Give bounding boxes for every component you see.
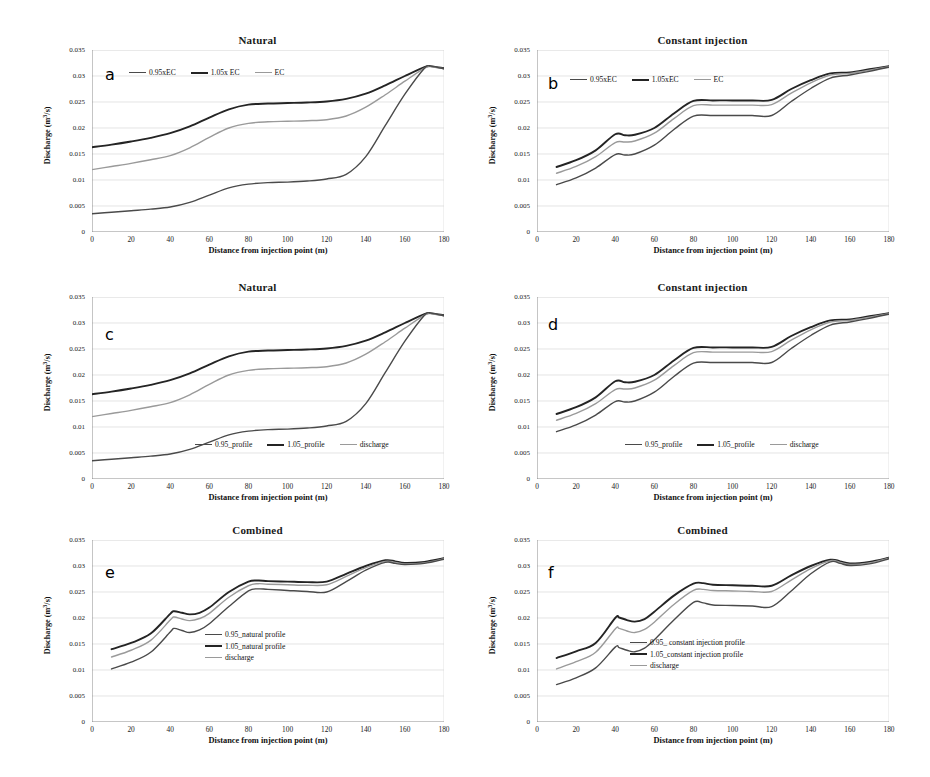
x-tick-label: 120 (312, 235, 342, 244)
legend-label: EC (714, 75, 724, 84)
y-tick-label: 0.02 (490, 614, 530, 622)
x-tick-label: 160 (835, 235, 865, 244)
y-axis-label-a: Discharge (m3/s) (42, 80, 53, 190)
x-tick-label: 160 (390, 235, 420, 244)
legend-item: 1.05_profile (697, 440, 754, 449)
y-tick-label: 0.035 (490, 293, 530, 301)
legend-item: discharge (340, 440, 389, 449)
legend-item: EC (255, 68, 285, 77)
y-tick-label: 0.01 (490, 423, 530, 431)
x-tick-label: 20 (116, 725, 146, 734)
legend-swatch-line-icon (191, 72, 208, 74)
x-tick-label: 60 (639, 482, 669, 491)
legend-label: discharge (790, 440, 819, 449)
x-tick-label: 140 (351, 482, 381, 491)
legend-item: 0.95_profile (195, 440, 252, 449)
legend-label: 0.95_natural profile (225, 630, 285, 639)
x-tick-label: 160 (390, 725, 420, 734)
y-tick-label: 0.03 (490, 72, 530, 80)
panel-letter-f: f (548, 563, 554, 582)
x-tick-label: 60 (194, 482, 224, 491)
y-tick-label: 0.025 (45, 98, 85, 106)
y-tick-label: 0.02 (490, 371, 530, 379)
plot-area-d (537, 297, 889, 479)
panel-letter-e: e (105, 563, 115, 582)
y-tick-label: 0.015 (490, 150, 530, 158)
legend-e: 0.95_natural profile1.05_natural profile… (205, 630, 285, 665)
y-tick-label: 0.03 (490, 319, 530, 327)
legend-swatch-line-icon (632, 79, 649, 81)
y-tick-label: 0.025 (490, 588, 530, 596)
legend-label: 0.95_profile (645, 440, 682, 449)
legend-swatch-line-icon (697, 444, 714, 446)
y-tick-label: 0.025 (490, 345, 530, 353)
y-tick-label: 0.005 (45, 202, 85, 210)
plot-area-a (92, 50, 444, 232)
legend-swatch-line-icon (205, 657, 222, 658)
series-line-d-2 (557, 314, 889, 432)
series-line-d-0 (557, 313, 889, 414)
legend-label: 0.95xEC (590, 75, 617, 84)
x-tick-label: 60 (194, 235, 224, 244)
legend-label: 1.05_profile (717, 440, 754, 449)
x-tick-label: 60 (639, 235, 669, 244)
x-tick-label: 140 (796, 725, 826, 734)
x-tick-label: 0 (522, 235, 552, 244)
x-tick-label: 100 (718, 235, 748, 244)
x-tick-label: 20 (561, 725, 591, 734)
x-tick-label: 120 (312, 725, 342, 734)
x-tick-label: 120 (757, 482, 787, 491)
y-axis-label-c: Discharge (m3/s) (42, 327, 53, 437)
panel-letter-b: b (548, 74, 558, 93)
legend-swatch-line-icon (195, 444, 212, 445)
chart-panel-d: Constant injectionDischarge (m3/s)00.005… (470, 277, 930, 526)
x-tick-label: 80 (678, 725, 708, 734)
y-tick-label: 0.02 (45, 371, 85, 379)
panel-title-e: Combined (25, 524, 490, 536)
plot-area-c (92, 297, 444, 479)
chart-panel-c: NaturalDischarge (m3/s)00.0050.010.0150.… (25, 277, 490, 526)
x-tick-label: 20 (561, 482, 591, 491)
y-tick-label: 0.015 (45, 640, 85, 648)
y-tick-label: 0.02 (45, 614, 85, 622)
figure-panel-grid: NaturalDischarge (m3/s)00.0050.010.0150.… (0, 0, 930, 777)
y-tick-label: 0.015 (490, 397, 530, 405)
legend-label: 0.95_profile (215, 440, 252, 449)
x-tick-label: 140 (351, 725, 381, 734)
legend-f: 0.95_ constant injection profile1.05_con… (630, 638, 745, 673)
x-axis-label-c: Distance from injection point (m) (92, 493, 444, 502)
x-tick-label: 120 (757, 235, 787, 244)
legend-label: 1.05_natural profile (225, 642, 285, 651)
plot-area-f (537, 540, 889, 722)
y-tick-label: 0.035 (490, 536, 530, 544)
x-tick-label: 80 (233, 235, 263, 244)
x-tick-label: 40 (155, 482, 185, 491)
legend-item: 0.95_profile (625, 440, 682, 449)
legend-swatch-line-icon (570, 79, 587, 80)
y-tick-label: 0.005 (490, 449, 530, 457)
y-axis-label-d: Discharge (m3/s) (487, 327, 498, 437)
panel-title-a: Natural (25, 34, 490, 46)
y-tick-label: 0.02 (45, 124, 85, 132)
x-tick-label: 180 (874, 235, 904, 244)
y-tick-label: 0.035 (45, 536, 85, 544)
legend-label: discharge (225, 653, 254, 662)
legend-item: discharge (205, 653, 285, 662)
y-tick-label: 0.01 (490, 176, 530, 184)
chart-panel-a: NaturalDischarge (m3/s)00.0050.010.0150.… (25, 30, 490, 279)
x-tick-label: 20 (116, 235, 146, 244)
x-tick-label: 100 (273, 482, 303, 491)
panel-title-c: Natural (25, 281, 490, 293)
x-tick-label: 80 (678, 482, 708, 491)
x-tick-label: 0 (77, 725, 107, 734)
legend-item: 1.05_constant injection profile (630, 650, 745, 659)
x-tick-label: 0 (77, 482, 107, 491)
y-axis-label-b: Discharge (m3/s) (487, 80, 498, 190)
legend-swatch-line-icon (625, 444, 642, 445)
legend-item: discharge (630, 661, 745, 670)
y-tick-label: 0.01 (45, 423, 85, 431)
y-tick-label: 0.005 (490, 692, 530, 700)
legend-label: 0.95_ constant injection profile (650, 638, 745, 647)
legend-swatch-line-icon (630, 653, 647, 655)
x-tick-label: 60 (194, 725, 224, 734)
